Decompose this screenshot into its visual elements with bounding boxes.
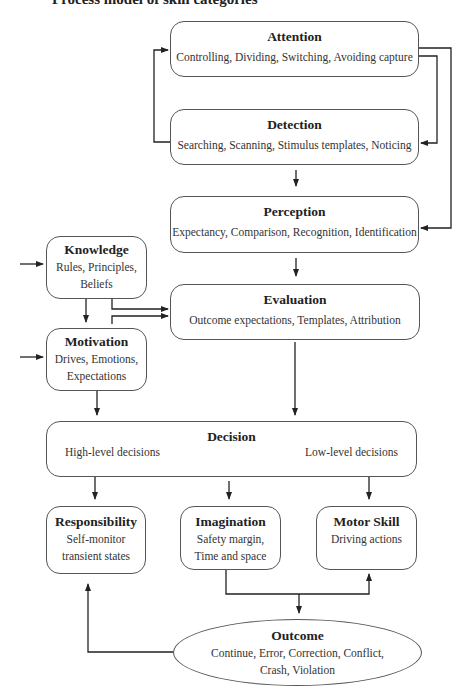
- node-responsibility-line2: transient states: [47, 548, 145, 565]
- node-motor-skill-line1: Driving actions: [317, 531, 416, 548]
- node-perception-text: Expectancy, Comparison, Recognition, Ide…: [171, 224, 418, 241]
- node-responsibility: Responsibility Self-monitor transient st…: [46, 506, 146, 574]
- node-attention-text: Controlling, Dividing, Switching, Avoidi…: [171, 49, 418, 66]
- node-evaluation-title: Evaluation: [171, 291, 419, 309]
- node-attention: Attention Controlling, Dividing, Switchi…: [170, 21, 419, 77]
- node-decision-low-level: Low-level decisions: [305, 446, 398, 458]
- node-responsibility-title: Responsibility: [47, 513, 145, 531]
- node-motor-skill: Motor Skill Driving actions: [316, 506, 417, 570]
- arrow-motivation-to-evaluation: [112, 316, 168, 324]
- arrow-attention-to-detection: [418, 56, 437, 143]
- arrow-knowledge-to-evaluation: [112, 299, 168, 309]
- node-motor-skill-title: Motor Skill: [317, 513, 416, 531]
- node-detection-text: Searching, Scanning, Stimulus templates,…: [171, 137, 418, 154]
- node-decision: Decision High-level decisions Low-level …: [46, 421, 417, 477]
- node-responsibility-line1: Self-monitor: [47, 531, 145, 548]
- node-outcome: Outcome Continue, Error, Correction, Con…: [173, 619, 422, 686]
- node-perception: Perception Expectancy, Comparison, Recog…: [170, 196, 419, 253]
- node-outcome-line2: Crash, Violation: [174, 662, 421, 679]
- node-knowledge: Knowledge Rules, Principles, Beliefs: [46, 236, 147, 299]
- node-motivation-line2: Expectations: [47, 368, 146, 385]
- node-perception-title: Perception: [171, 203, 418, 221]
- arrow-outcome-to-responsibility: [88, 584, 174, 652]
- node-outcome-title: Outcome: [174, 627, 421, 645]
- node-decision-high-level: High-level decisions: [65, 446, 160, 458]
- node-detection-title: Detection: [171, 116, 418, 134]
- node-evaluation-text: Outcome expectations, Templates, Attribu…: [171, 312, 419, 329]
- node-attention-title: Attention: [171, 28, 418, 46]
- node-evaluation: Evaluation Outcome expectations, Templat…: [170, 284, 420, 340]
- arrow-detection-to-attention: [154, 50, 170, 142]
- node-detection: Detection Searching, Scanning, Stimulus …: [170, 109, 419, 165]
- node-decision-title: Decision: [47, 428, 416, 446]
- node-motivation: Motivation Drives, Emotions, Expectation…: [46, 328, 147, 391]
- node-imagination-line2: Time and space: [181, 548, 280, 565]
- node-outcome-line1: Continue, Error, Correction, Conflict,: [174, 645, 421, 662]
- node-knowledge-line1: Rules, Principles,: [47, 259, 146, 276]
- node-knowledge-line2: Beliefs: [47, 276, 146, 293]
- node-imagination-title: Imagination: [181, 513, 280, 531]
- node-knowledge-title: Knowledge: [47, 241, 146, 259]
- node-imagination: Imagination Safety margin, Time and spac…: [180, 506, 281, 570]
- arrow-attention-to-perception: [418, 48, 451, 228]
- arrow-imagination-to-motor-skill: [226, 570, 369, 594]
- node-motivation-line1: Drives, Emotions,: [47, 351, 146, 368]
- node-imagination-line1: Safety margin,: [181, 531, 280, 548]
- node-motivation-title: Motivation: [47, 333, 146, 351]
